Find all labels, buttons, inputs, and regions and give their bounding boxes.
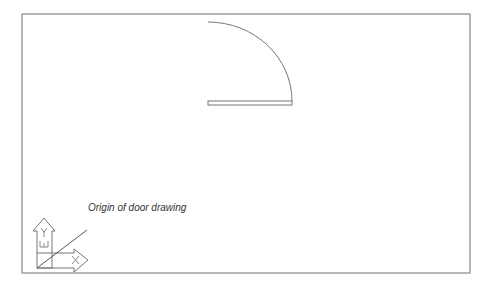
w-mark-icon — [40, 241, 48, 247]
door-swing-arc — [208, 22, 292, 101]
drawing-frame — [22, 14, 470, 273]
y-mark-icon — [41, 228, 44, 232]
origin-annotation: Origin of door drawing — [88, 202, 186, 213]
drawing-canvas — [0, 0, 489, 287]
y-mark-icon-2 — [44, 228, 47, 232]
door-leaf — [208, 101, 292, 105]
